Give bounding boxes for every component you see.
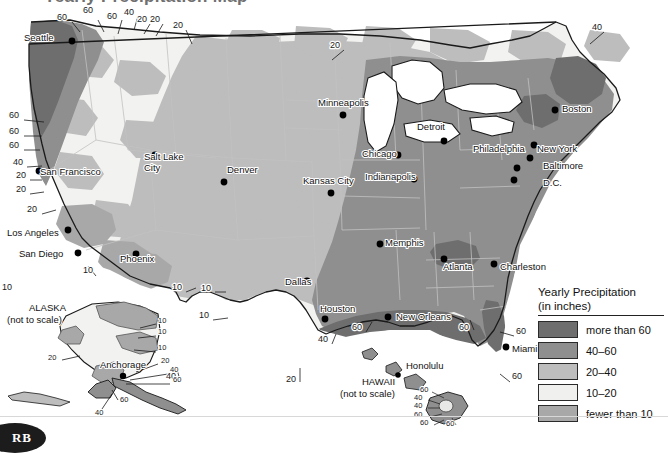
alaska-contour-label: 40: [170, 365, 178, 374]
city-dot: [322, 316, 329, 323]
legend-item: more than 60: [538, 319, 668, 340]
city-dot: [503, 344, 510, 351]
page-title: Yearly Precipitation Map: [44, 0, 248, 7]
alaska-city-label: Anchorage: [100, 359, 146, 370]
alaska-contour-label: 10: [158, 343, 166, 352]
contour-label: 40: [318, 334, 328, 344]
contour-label: 60: [107, 11, 117, 21]
contour-label: 20: [16, 184, 26, 194]
legend-label: 40–60: [586, 345, 617, 357]
hawaii-title-line2: (not to scale): [340, 388, 395, 399]
contour-label: 10: [2, 282, 12, 292]
city-dot: [377, 241, 384, 248]
legend-label: fewer than 10: [586, 408, 653, 420]
contour-label: 20: [150, 14, 160, 24]
legend-swatch: [538, 363, 578, 380]
city-dot: [65, 227, 72, 234]
city-label: Dallas: [285, 276, 312, 287]
legend-swatch: [538, 342, 578, 359]
city-label: New York: [537, 143, 577, 154]
alaska-contour-label: 10: [158, 327, 166, 336]
city-label: Baltimore: [543, 160, 583, 171]
city-label: D.C.: [543, 177, 562, 188]
hawaii-title-line1: HAWAII: [362, 376, 395, 387]
hawaii-contour-label: 40: [414, 401, 422, 410]
contour-label: 60: [352, 322, 362, 332]
city-label: Minneapolis: [318, 97, 369, 108]
contour-label: 60: [512, 371, 522, 381]
city-label: Miami: [512, 343, 537, 354]
city-dot: [511, 177, 518, 184]
city-dot: [514, 165, 521, 172]
city-label: Seattle: [24, 32, 54, 43]
city-dot: [385, 314, 392, 321]
city-label: Charleston: [500, 261, 546, 272]
city-label: Indianapolis: [365, 171, 416, 182]
city-label: Houston: [320, 303, 355, 314]
contour-label: 10: [201, 283, 211, 293]
contour-label: 10: [172, 282, 182, 292]
city-dot: [441, 138, 448, 145]
city-label: Chicago: [362, 148, 397, 159]
legend-swatch: [538, 321, 578, 338]
legend-item: 40–60: [538, 340, 668, 361]
city-label: Memphis: [385, 237, 424, 248]
contour-label: 60: [9, 110, 19, 120]
city-label: Denver: [227, 164, 258, 175]
city-dot: [552, 107, 559, 114]
legend-item: fewer than 10: [538, 403, 668, 424]
city-label: New Orleans: [396, 311, 451, 322]
contour-label: 10: [83, 265, 93, 275]
alaska-contour-label: 60: [173, 375, 181, 384]
city-dot: [75, 250, 82, 257]
contour-label: 60: [516, 326, 526, 336]
legend-label: more than 60: [586, 324, 651, 336]
legend-label: 10–20: [586, 387, 617, 399]
alaska-contour-label: 20: [48, 353, 56, 362]
contour-label: 60: [9, 126, 19, 136]
hawaii-contour-label: 60: [420, 418, 428, 427]
alaska-title-line1: ALASKA: [29, 302, 67, 313]
contour-label: 20: [137, 14, 147, 24]
contour-label: 60: [57, 12, 67, 22]
city-dot: [328, 190, 335, 197]
contour-label: 20: [173, 20, 183, 30]
legend-label: 20–40: [586, 366, 617, 378]
legend-swatch: [538, 384, 578, 401]
page-title-strip: Yearly Precipitation Map: [0, 0, 668, 9]
city-dot: [221, 179, 228, 186]
city-label: Boston: [562, 103, 592, 114]
alaska-contour-label: 20: [161, 356, 169, 365]
hawaii-city-label: Honolulu: [406, 360, 444, 371]
contour-label: 60: [459, 322, 469, 332]
legend-item: 20–40: [538, 361, 668, 382]
hawaii-contour-label: 60: [446, 419, 454, 428]
contour-label: 60: [9, 140, 19, 150]
contour-label: 20: [27, 204, 37, 214]
legend-items: more than 6040–6020–4010–20fewer than 10: [538, 319, 668, 424]
city-label: San Francisco: [40, 166, 101, 177]
city-dot: [340, 112, 347, 119]
city-label: Phoenix: [120, 253, 155, 264]
city-dot: [491, 261, 498, 268]
contour-label: 20: [330, 40, 340, 50]
contour-label: 20: [16, 170, 26, 180]
contour-label: 20: [286, 374, 296, 384]
city-label: Philadelphia: [473, 143, 525, 154]
publisher-logo-text: RB: [0, 430, 32, 446]
city-label: Kansas City: [303, 175, 354, 186]
city-dot: [69, 38, 76, 45]
city-dot: [527, 155, 534, 162]
legend-swatch: [538, 405, 578, 422]
city-label: Detroit: [417, 121, 445, 132]
legend-title-line1: Yearly Precipitation: [538, 286, 668, 300]
footer-divider: [0, 416, 668, 417]
alaska-contour-label: 10: [158, 316, 166, 325]
city-label: Atlanta: [443, 261, 473, 272]
legend: Yearly Precipitation (in inches) more th…: [538, 286, 668, 424]
contour-label: 40: [13, 157, 23, 167]
contour-label: 40: [592, 22, 602, 32]
city-label: San Diego: [19, 248, 63, 259]
legend-divider: [538, 315, 664, 316]
